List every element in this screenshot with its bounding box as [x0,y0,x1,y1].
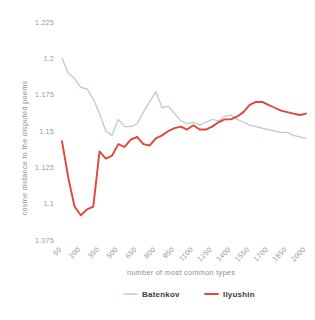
x-tick-label: 1100 [177,245,195,263]
x-tick-label: 1850 [270,245,288,263]
x-tick-label: 350 [86,245,101,260]
x-tick-label: 500 [104,245,119,260]
y-tick-label: 1.175 [35,90,54,99]
chart-container: 1.0751.11.1251.151.1751.21.225 502003505… [0,0,315,320]
line-chart: 1.0751.11.1251.151.1751.21.225 502003505… [0,0,315,320]
legend-label-ilyushin[interactable]: Ilyushin [223,290,255,299]
y-tick-label: 1.225 [35,18,54,27]
x-tick-label: 200 [67,245,82,260]
legend-label-batenkov[interactable]: Batenkov [142,290,180,299]
series-lines [62,58,306,215]
x-tick-label: 1700 [252,245,270,263]
x-axis-tick-labels: 5020035050065080095011001250140015501700… [51,245,307,263]
y-tick-label: 1.075 [35,236,54,245]
x-tick-label: 650 [123,245,138,260]
x-tick-label: 950 [161,245,176,260]
y-tick-label: 1.1 [43,199,54,208]
y-tick-label: 1.15 [39,127,54,136]
x-tick-label: 50 [51,245,63,257]
series-line-batenkov [62,58,306,138]
x-tick-label: 1550 [233,245,251,263]
x-axis-title: number of most common types [127,268,235,277]
y-tick-label: 1.2 [43,54,54,63]
x-tick-label: 2000 [289,245,307,263]
x-tick-label: 800 [142,245,157,260]
y-tick-label: 1.125 [35,163,54,172]
y-axis-title: cosine distance to the disputed poems [20,80,29,215]
x-tick-label: 1250 [195,245,213,263]
series-line-ilyushin [62,102,306,215]
chart-legend: BatenkovIlyushin [124,290,255,299]
y-axis-tick-labels: 1.0751.11.1251.151.1751.21.225 [35,18,54,245]
x-tick-label: 1400 [214,245,232,263]
